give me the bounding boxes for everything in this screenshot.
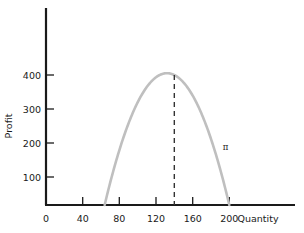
profit-curve-pi-label: π — [223, 142, 229, 152]
axes-group — [45, 8, 295, 205]
y-tick-label-100: 100 — [23, 172, 41, 183]
x-axis-title: Quantity — [237, 213, 278, 224]
x-tick-label-40: 40 — [77, 213, 89, 224]
profit-quantity-chart: 400 300 200 100 0 40 80 120 160 200 π — [0, 0, 304, 233]
profit-curve — [105, 73, 230, 205]
x-tick-label-160: 160 — [184, 213, 202, 224]
chart-canvas: 400 300 200 100 0 40 80 120 160 200 π — [0, 0, 304, 233]
y-tick-label-300: 300 — [23, 104, 41, 115]
y-axis-ticks — [46, 75, 54, 177]
y-tick-label-400: 400 — [23, 70, 41, 81]
x-tick-label-0: 0 — [43, 213, 49, 224]
y-axis-title: Profit — [3, 113, 14, 138]
y-tick-label-200: 200 — [23, 138, 41, 149]
y-axis-tick-labels: 400 300 200 100 — [23, 70, 41, 183]
x-tick-label-80: 80 — [113, 213, 125, 224]
x-tick-label-200: 200 — [220, 213, 238, 224]
x-tick-label-120: 120 — [147, 213, 165, 224]
x-axis-tick-labels: 0 40 80 120 160 200 — [43, 213, 238, 224]
